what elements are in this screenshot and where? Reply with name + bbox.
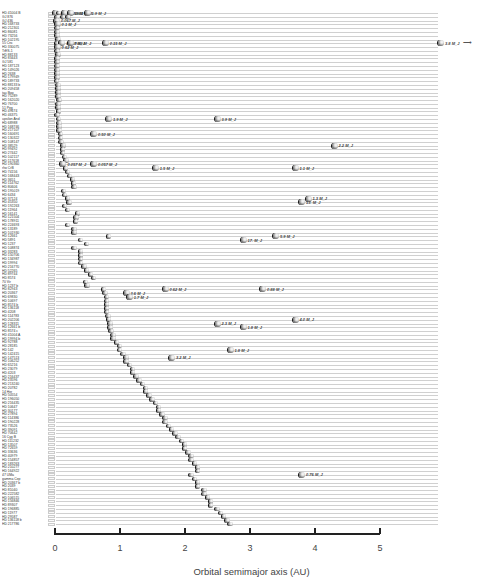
- orbit-row-line: [56, 384, 438, 385]
- row-marker: [48, 504, 55, 507]
- planet-mass-label: 1.9 M_J: [92, 11, 106, 16]
- planet-marker: [92, 276, 97, 281]
- orbit-row-line: [56, 483, 438, 484]
- row-marker: [48, 432, 55, 435]
- row-marker: [48, 296, 55, 299]
- planet-mass-label: 13. M_J: [306, 200, 320, 205]
- row-marker: [48, 91, 55, 94]
- planet-marker: [273, 233, 279, 239]
- orbit-row-line: [56, 411, 438, 412]
- x-tick-label: 2: [175, 543, 195, 553]
- row-marker: [48, 299, 55, 302]
- row-marker: [48, 277, 55, 280]
- row-marker: [48, 436, 55, 439]
- row-marker: [48, 167, 55, 170]
- orbit-row-line: [56, 93, 438, 94]
- planet-mass-label: 0.76 M_J: [306, 472, 323, 477]
- x-axis-line: [54, 533, 380, 535]
- orbit-row-line: [56, 28, 438, 29]
- row-marker: [48, 322, 55, 325]
- orbit-row-line: [56, 36, 438, 37]
- orbit-row-line: [56, 395, 438, 396]
- orbit-row-line: [56, 494, 438, 495]
- row-marker: [48, 118, 55, 121]
- orbit-row-line: [56, 430, 438, 431]
- row-marker: [48, 455, 55, 458]
- row-marker: [48, 356, 55, 359]
- orbit-row-line: [56, 58, 438, 59]
- planet-marker: [127, 294, 133, 300]
- row-marker: [48, 428, 55, 431]
- row-marker: [48, 254, 55, 257]
- row-marker: [48, 311, 55, 314]
- planet-marker: [85, 10, 91, 16]
- row-marker: [48, 337, 55, 340]
- planet-mass-label: 3.2 M_J: [176, 355, 190, 360]
- orbit-row-line: [56, 305, 438, 306]
- orbit-row-line: [56, 422, 438, 423]
- planet-marker: [67, 200, 72, 205]
- row-marker: [48, 477, 55, 480]
- orbit-row-line: [56, 505, 438, 506]
- row-marker: [48, 30, 55, 33]
- planet-mass-label: 0.057 M_J: [67, 162, 86, 167]
- row-marker: [48, 197, 55, 200]
- orbit-row-line: [56, 513, 438, 514]
- orbit-row-line: [56, 172, 438, 173]
- row-marker: [48, 519, 55, 522]
- orbit-row-line: [56, 210, 438, 211]
- planet-mass-label: 5.9 M_J: [280, 234, 294, 239]
- planet-marker: [196, 484, 201, 489]
- orbit-row-line: [56, 229, 438, 230]
- orbit-row-line: [56, 153, 438, 154]
- row-marker: [48, 523, 55, 526]
- row-marker: [48, 420, 55, 423]
- planet-marker: [209, 503, 214, 508]
- x-tick: [249, 528, 251, 534]
- row-marker: [48, 250, 55, 253]
- row-marker: [48, 511, 55, 514]
- x-tick-label: 3: [240, 543, 260, 553]
- row-marker: [48, 443, 55, 446]
- row-marker: [48, 515, 55, 518]
- x-tick: [119, 528, 121, 534]
- orbit-row-line: [56, 365, 438, 366]
- orbit-row-line: [56, 486, 438, 487]
- orbit-row-line: [56, 252, 438, 253]
- row-marker: [48, 216, 55, 219]
- row-marker: [48, 106, 55, 109]
- row-marker: [48, 352, 55, 355]
- planet-marker: [332, 143, 338, 149]
- orbit-row-line: [56, 392, 438, 393]
- orbit-row-line: [56, 62, 438, 63]
- orbit-row-line: [56, 255, 438, 256]
- row-marker: [48, 114, 55, 117]
- row-marker: [48, 330, 55, 333]
- row-marker: [48, 439, 55, 442]
- row-marker: [48, 140, 55, 143]
- row-marker: [48, 65, 55, 68]
- planet-mass-label: 3.8 M_J: [445, 41, 459, 46]
- row-marker: [48, 235, 55, 238]
- row-marker: [48, 360, 55, 363]
- orbit-row-line: [56, 66, 438, 67]
- row-marker: [48, 102, 55, 105]
- orbit-row-line: [56, 418, 438, 419]
- row-marker: [48, 402, 55, 405]
- planet-mass-label: 0.15 M_J: [110, 41, 127, 46]
- orbit-row-line: [56, 373, 438, 374]
- planet-marker: [241, 324, 247, 330]
- planet-marker: [107, 234, 112, 239]
- row-marker: [48, 159, 55, 162]
- orbit-row-line: [56, 17, 438, 18]
- orbit-row-line: [56, 524, 438, 525]
- row-marker: [48, 390, 55, 393]
- row-marker: [48, 273, 55, 276]
- orbit-row-line: [56, 301, 438, 302]
- row-marker: [48, 481, 55, 484]
- row-marker: [48, 23, 55, 26]
- orbit-row-line: [56, 452, 438, 453]
- planet-mass-label: 2.2 M_J: [339, 143, 353, 148]
- orbit-row-line: [56, 77, 438, 78]
- row-marker: [48, 178, 55, 181]
